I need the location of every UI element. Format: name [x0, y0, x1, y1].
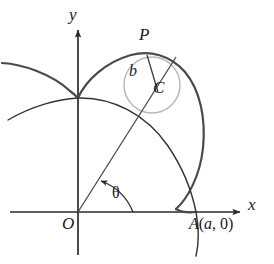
point-a-param: a — [204, 215, 212, 232]
point-a-zero: 0 — [220, 215, 228, 232]
secondary-arc — [8, 98, 198, 256]
arc-through-A — [8, 98, 198, 256]
origin-label: O — [62, 215, 74, 232]
curve-main-lobe — [78, 53, 204, 209]
point-a-close-paren: ) — [228, 215, 233, 232]
x-axis-label: x — [248, 196, 256, 213]
segment-label-b: b — [129, 63, 137, 79]
y-axis-label: y — [69, 6, 77, 23]
point-label-c: C — [153, 79, 164, 96]
point-a-letter: A — [189, 215, 199, 232]
point-label-p: P — [139, 26, 149, 43]
point-label-a: A(a, 0) — [189, 216, 233, 232]
angle-label-theta: θ — [112, 185, 120, 201]
main-polar-curve — [2, 53, 204, 212]
curve-upper-left-branch — [2, 63, 78, 98]
geometry-figure: y x O P C b θ A(a, 0) — [0, 0, 274, 264]
point-a-comma: , — [212, 215, 220, 232]
